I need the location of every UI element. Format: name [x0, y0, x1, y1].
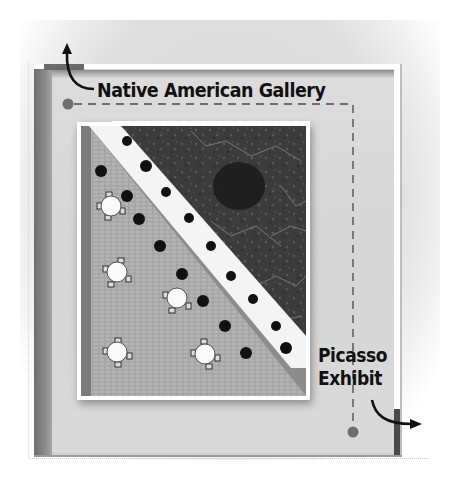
picasso-exhibit-label: Picasso Exhibit — [318, 344, 387, 390]
picasso-label-line2: Exhibit — [318, 367, 387, 390]
native-american-gallery-label: Native American Gallery — [97, 79, 325, 101]
route-overlay — [0, 0, 453, 484]
picasso-label-line1: Picasso — [318, 344, 387, 367]
route-start-dot — [63, 99, 74, 110]
exit-arrow-icon — [372, 400, 422, 429]
dashed-route — [74, 104, 353, 428]
route-end-dot — [348, 427, 359, 438]
entrance-arrow-icon — [62, 43, 94, 89]
